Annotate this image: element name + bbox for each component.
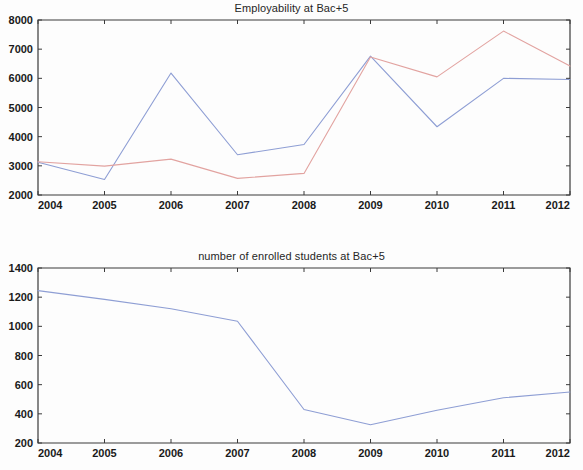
- x-axis-tick-label: 2009: [358, 447, 382, 459]
- y-axis-tick-label: 200: [15, 437, 33, 449]
- chart-panel-enrolled-students: number of enrolled students at Bac+5 140…: [0, 248, 583, 470]
- chart-panel-employability: Employability at Bac+5 80007000600050004…: [0, 0, 583, 222]
- y-axis-tick-label: 2000: [9, 189, 33, 201]
- data-series-line-series-blue: [38, 291, 570, 425]
- y-axis-tick-label: 1400: [9, 262, 33, 274]
- x-axis-tick-label: 2011: [492, 199, 516, 211]
- y-axis-tick-label: 400: [15, 408, 33, 420]
- x-axis-tick-label: 2007: [225, 447, 249, 459]
- x-axis-tick-label: 2012: [546, 199, 570, 211]
- x-axis-tick-label: 2007: [225, 199, 249, 211]
- x-axis-tick-label: 2009: [358, 199, 382, 211]
- x-axis-tick-label: 2011: [492, 447, 516, 459]
- x-axis-tick-label: 2006: [159, 199, 183, 211]
- x-axis-tick-label: 2004: [38, 447, 63, 459]
- figure-canvas: Employability at Bac+5 80007000600050004…: [0, 0, 583, 470]
- x-axis-tick-label: 2010: [425, 199, 449, 211]
- y-axis-tick-label: 800: [15, 350, 33, 362]
- y-axis-tick-label: 3000: [9, 160, 33, 172]
- x-axis-tick-label: 2008: [292, 447, 316, 459]
- y-axis-tick-label: 1000: [9, 320, 33, 332]
- y-axis-tick-label: 4000: [9, 131, 33, 143]
- x-axis-tick-label: 2006: [159, 447, 183, 459]
- x-axis-tick-label: 2012: [546, 447, 570, 459]
- x-axis-tick-label: 2010: [425, 447, 449, 459]
- plot-area-employability: 8000700060005000400030002000200420052006…: [0, 0, 583, 222]
- y-axis-tick-label: 8000: [9, 14, 33, 26]
- y-axis-tick-label: 1200: [9, 291, 33, 303]
- y-axis-tick-label: 5000: [9, 102, 33, 114]
- x-axis-tick-label: 2005: [92, 447, 116, 459]
- y-axis-tick-label: 6000: [9, 72, 33, 84]
- x-axis-tick-label: 2005: [92, 199, 116, 211]
- data-series-line-series-red: [38, 31, 570, 178]
- data-series-line-series-blue: [38, 56, 570, 179]
- plot-area-enrolled-students: 1400120010008006004002002004200520062007…: [0, 248, 583, 470]
- axis-box: [38, 268, 570, 443]
- y-axis-tick-label: 7000: [9, 43, 33, 55]
- x-axis-tick-label: 2008: [292, 199, 316, 211]
- axis-box: [38, 20, 570, 195]
- y-axis-tick-label: 600: [15, 379, 33, 391]
- x-axis-tick-label: 2004: [38, 199, 63, 211]
